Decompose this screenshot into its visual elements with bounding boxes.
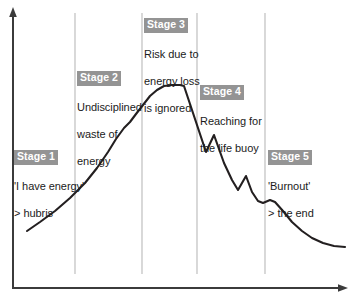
stage-3-body-line-3: is ignored	[144, 102, 200, 116]
stage-3-body-line-2: energy loss	[144, 75, 200, 89]
stage-5-title: Stage 5	[268, 150, 312, 166]
stage-1-body-line-1: 'I have energy'	[14, 180, 84, 194]
stage-annotation-1: Stage 1 'I have energy' > hubris	[14, 148, 84, 234]
stage-4-body-line-2: the life buoy	[200, 142, 262, 156]
stage-3-body-line-1: Risk due to	[144, 48, 200, 62]
stage-2-body-line-3: energy	[77, 155, 142, 169]
stage-4-title: Stage 4	[200, 85, 244, 101]
stage-annotation-4: Stage 4 Reaching for the life buoy	[200, 83, 262, 169]
stage-1-body: 'I have energy' > hubris	[14, 166, 84, 234]
burnout-curve-figure: Stage 1 'I have energy' > hubris Stage 2…	[0, 0, 353, 303]
stage-annotation-3: Stage 3 Risk due to energy loss is ignor…	[144, 16, 200, 129]
stage-2-body-line-1: Undisciplined	[77, 101, 142, 115]
y-axis-arrowhead-icon	[9, 7, 17, 17]
stage-4-body: Reaching for the life buoy	[200, 101, 262, 169]
stage-1-title: Stage 1	[14, 150, 58, 166]
stage-2-body-line-2: waste of	[77, 128, 142, 142]
x-axis	[12, 284, 348, 292]
stage-4-body-line-1: Reaching for	[200, 115, 262, 129]
stage-5-body-line-2: > the end	[268, 207, 314, 221]
stage-annotation-5: Stage 5 'Burnout' > the end	[268, 148, 314, 234]
stage-2-title: Stage 2	[77, 71, 121, 87]
stage-3-body: Risk due to energy loss is ignored	[144, 34, 200, 129]
stage-1-body-line-2: > hubris	[14, 207, 84, 221]
stage-3-title: Stage 3	[144, 18, 188, 34]
x-axis-arrowhead-icon	[338, 284, 348, 292]
stage-2-body: Undisciplined waste of energy	[77, 87, 142, 182]
stage-annotation-2: Stage 2 Undisciplined waste of energy	[77, 69, 142, 182]
stage-5-body-line-1: 'Burnout'	[268, 180, 314, 194]
stage-5-body: 'Burnout' > the end	[268, 166, 314, 234]
